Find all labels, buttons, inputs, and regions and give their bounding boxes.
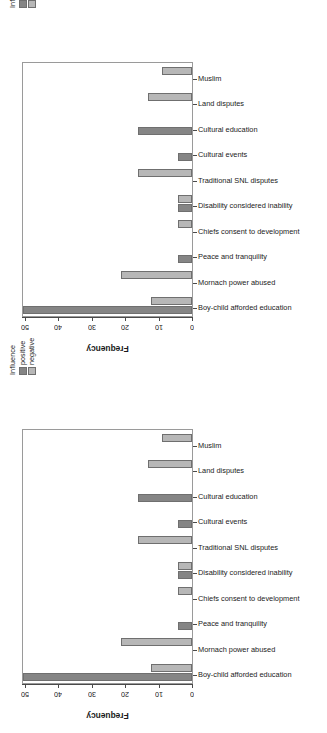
category-label: Mornach power abused — [198, 645, 275, 655]
category-tick-icon — [193, 104, 197, 105]
legend-bottom: Influence positive negative — [8, 375, 128, 421]
category-label: Cultural events — [198, 150, 247, 160]
value-axis-line-bottom — [22, 684, 193, 685]
bar-positive — [178, 153, 192, 161]
category-tick-icon — [193, 130, 197, 131]
value-tick-label: 40 — [51, 323, 65, 331]
category-tick-icon — [193, 650, 197, 651]
category-tick-icon — [193, 155, 197, 156]
category-label: Muslim — [198, 74, 221, 84]
bar-positive — [23, 306, 192, 314]
bar-negative — [148, 93, 192, 101]
legend-swatch-negative-icon — [28, 367, 36, 375]
category-tick-icon — [193, 181, 197, 182]
value-axis-title-top: Frequency — [22, 344, 193, 354]
value-tick-label: 50 — [18, 690, 32, 698]
category-label: Disability considered inability — [198, 201, 292, 211]
bar-negative — [162, 434, 192, 442]
value-tick-label: 20 — [118, 690, 132, 698]
legend-entry-negative: negative — [27, 0, 36, 8]
bar-negative — [178, 562, 192, 570]
plot-area-top — [22, 62, 193, 317]
legend-entry-negative: negative — [27, 338, 36, 375]
legend-top: Influence positive negative — [8, 8, 128, 54]
category-label: Cultural events — [198, 517, 247, 527]
category-tick-icon — [193, 624, 197, 625]
value-tick-label: 0 — [185, 323, 199, 331]
category-tick-icon — [193, 257, 197, 258]
value-tick-label: 40 — [51, 690, 65, 698]
value-axis-line-top — [22, 317, 193, 318]
legend-title: Influence — [8, 0, 17, 8]
bar-negative — [178, 220, 192, 228]
bar-negative — [178, 195, 192, 203]
figure-canvas: Influence positive negative Frequency In… — [0, 0, 327, 733]
legend-swatch-positive-icon — [19, 367, 27, 375]
value-tick-icon — [58, 317, 59, 321]
category-label: Mornach power abused — [198, 278, 275, 288]
bar-negative — [138, 536, 192, 544]
category-label: Land disputes — [198, 466, 244, 476]
legend-swatch-positive-icon — [19, 0, 27, 8]
bar-negative — [121, 638, 192, 646]
category-label: Chiefs consent to development — [198, 227, 299, 237]
value-tick-icon — [58, 684, 59, 688]
value-tick-icon — [192, 684, 193, 688]
category-label: Traditional SNL disputes — [198, 543, 278, 553]
value-tick-icon — [125, 317, 126, 321]
value-tick-label: 10 — [152, 690, 166, 698]
legend-title: Influence — [8, 338, 17, 375]
legend-swatch-negative-icon — [28, 0, 36, 8]
bar-positive — [138, 127, 192, 135]
category-tick-icon — [193, 497, 197, 498]
value-tick-icon — [192, 317, 193, 321]
category-tick-icon — [193, 471, 197, 472]
legend-label-negative: negative — [27, 338, 36, 365]
category-label: Peace and tranquility — [198, 252, 267, 262]
category-tick-icon — [193, 446, 197, 447]
value-tick-label: 0 — [185, 690, 199, 698]
bar-positive — [178, 520, 192, 528]
category-tick-icon — [193, 548, 197, 549]
category-tick-icon — [193, 308, 197, 309]
category-tick-icon — [193, 573, 197, 574]
legend-entry-positive: positive — [18, 338, 27, 375]
category-tick-icon — [193, 675, 197, 676]
value-axis-title-bottom: Frequency — [22, 711, 193, 721]
category-label: Boy-child afforded education — [198, 670, 292, 680]
category-tick-icon — [193, 522, 197, 523]
value-tick-icon — [159, 684, 160, 688]
category-tick-icon — [193, 232, 197, 233]
category-label: Land disputes — [198, 99, 244, 109]
category-label: Chiefs consent to development — [198, 594, 299, 604]
bar-negative — [178, 587, 192, 595]
value-tick-icon — [125, 684, 126, 688]
category-label: Disability considered inability — [198, 568, 292, 578]
category-tick-icon — [193, 599, 197, 600]
category-label: Cultural education — [198, 125, 258, 135]
legend-label-positive: positive — [18, 341, 27, 365]
value-tick-icon — [92, 684, 93, 688]
category-label: Boy-child afforded education — [198, 303, 292, 313]
value-tick-icon — [92, 317, 93, 321]
bar-negative — [148, 460, 192, 468]
bar-positive — [138, 494, 192, 502]
category-tick-icon — [193, 79, 197, 80]
value-tick-label: 50 — [18, 323, 32, 331]
plot-area-bottom — [22, 429, 193, 684]
value-tick-icon — [25, 684, 26, 688]
category-label: Cultural education — [198, 492, 258, 502]
value-tick-label: 30 — [85, 323, 99, 331]
category-tick-icon — [193, 206, 197, 207]
bar-negative — [151, 297, 192, 305]
category-label: Muslim — [198, 441, 221, 451]
bar-negative — [151, 664, 192, 672]
value-tick-icon — [159, 317, 160, 321]
value-tick-icon — [25, 317, 26, 321]
value-tick-label: 20 — [118, 323, 132, 331]
value-tick-label: 10 — [152, 323, 166, 331]
bar-positive — [178, 255, 192, 263]
legend-entry-positive: positive — [18, 0, 27, 8]
bar-positive — [23, 673, 192, 681]
bar-positive — [178, 204, 192, 212]
